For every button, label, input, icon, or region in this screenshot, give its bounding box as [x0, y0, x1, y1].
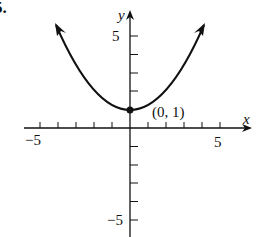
vertex-point — [127, 107, 134, 114]
x-tick-label-neg5: −5 — [25, 132, 41, 148]
parabola-graph: 5. y x 5 −5 −5 5 (0, 1) — [0, 0, 261, 237]
y-axis-label: y — [116, 7, 125, 23]
y-tick-label-neg5: −5 — [107, 212, 123, 228]
y-tick-label-5: 5 — [112, 28, 120, 44]
x-tick-label-5: 5 — [214, 134, 222, 150]
problem-label: 5. — [0, 0, 7, 17]
vertex-label: (0, 1) — [152, 104, 185, 121]
x-axis-label: x — [242, 111, 250, 127]
